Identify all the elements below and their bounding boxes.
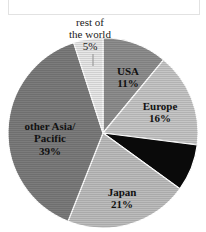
slice-value-other-asia-pacific: 39% [39,145,61,157]
slice-value-japan: 21% [111,198,133,210]
slice-label-rest-of-the-world: rest of [76,16,104,28]
slice-value-usa: 11% [117,77,138,89]
pie-chart-svg: USA11%Europe16%Japan21%other Asia/Pacifi… [0,0,206,232]
slice-label-usa: USA [117,65,139,77]
slice-value-rest-of-the-world: 5% [83,40,98,52]
slice-label-other-asia-pacific: other Asia/ [25,120,77,132]
slice-label-line2-other-asia-pacific: Pacific [34,132,66,144]
slice-label-japan: Japan [108,186,137,198]
pie-chart: USA11%Europe16%Japan21%other Asia/Pacifi… [0,0,206,232]
slice-label-line2-rest-of-the-world: the world [69,28,111,40]
slice-label-europe: Europe [143,100,178,112]
slice-value-europe: 16% [149,112,171,124]
